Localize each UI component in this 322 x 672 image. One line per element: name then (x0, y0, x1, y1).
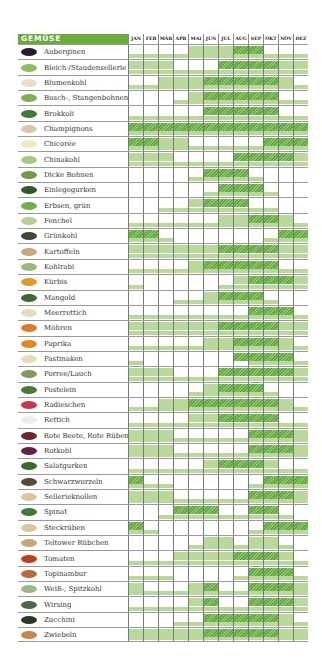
leek-icon (18, 369, 40, 380)
month-cell-jan (128, 152, 143, 166)
month-cell-jul (218, 214, 233, 228)
vegetable-name: Brokkoli (40, 110, 74, 118)
month-cell-sep (248, 413, 263, 427)
month-cell-sep (248, 613, 263, 627)
month-cell-jul (218, 490, 233, 504)
jerusalem-artichoke-icon (18, 568, 40, 579)
month-cell-dez (293, 244, 308, 258)
month-cell-apr (173, 444, 188, 458)
vegetable-row: Steckrüben (18, 520, 308, 535)
month-cell-dez (293, 337, 308, 351)
vegetable-name: Dicke Bohnen (40, 171, 93, 179)
month-cell-apr (173, 122, 188, 136)
vegetable-name: Weiß-, Spitzkohl (40, 585, 102, 593)
month-cell-jan (128, 367, 143, 381)
month-cell-sep (248, 198, 263, 212)
month-cell-jan (128, 137, 143, 151)
month-cell-feb (143, 429, 158, 443)
celeriac-icon (18, 492, 40, 503)
month-cell-dez (293, 597, 308, 611)
month-cell-mär (158, 137, 173, 151)
month-cell-jun (203, 275, 218, 289)
vegetable-name: Wirsing (40, 601, 71, 609)
kohlrabi-icon (18, 261, 40, 272)
month-cell-jan (128, 490, 143, 504)
vegetable-label: Fenchel (18, 214, 128, 228)
month-cell-feb (143, 521, 158, 535)
month-cell-apr (173, 413, 188, 427)
month-cell-dez (293, 321, 308, 335)
vegetable-label: Bleich-/Staudensellerie (18, 60, 128, 74)
vegetable-label: Rotkohl (18, 444, 128, 458)
month-cell-aug (233, 60, 248, 74)
month-cell-nov (278, 429, 293, 443)
month-cell-jul (218, 45, 233, 59)
month-cell-feb (143, 152, 158, 166)
month-cell-jun (203, 429, 218, 443)
month-cell-jun (203, 413, 218, 427)
month-cell-jun (203, 45, 218, 59)
month-cell-okt (263, 291, 278, 305)
month-cell-nov (278, 628, 293, 641)
vegetable-label: Auberginen (18, 45, 128, 59)
month-cell-apr (173, 229, 188, 243)
aubergine-icon (18, 47, 40, 58)
vegetable-row: Auberginen (18, 44, 308, 59)
vegetable-row: Fenchel (18, 213, 308, 228)
month-cell-aug (233, 198, 248, 212)
vegetable-label: Kürbis (18, 275, 128, 289)
month-cell-jul (218, 168, 233, 182)
vegetable-name: Rotkohl (40, 447, 72, 455)
month-header-aug: AUG (233, 34, 248, 44)
vegetable-name: Spinat (40, 508, 67, 516)
month-cell-jan (128, 475, 143, 489)
month-cell-mär (158, 536, 173, 550)
month-cell-feb (143, 367, 158, 381)
month-cell-mär (158, 628, 173, 641)
vegetable-row: Zwiebeln (18, 627, 308, 642)
month-cell-mär (158, 291, 173, 305)
month-cell-mär (158, 398, 173, 412)
vegetable-label: Brokkoli (18, 106, 128, 120)
month-cell-aug (233, 352, 248, 366)
month-cell-sep (248, 168, 263, 182)
month-cell-mär (158, 367, 173, 381)
vegetable-row: Möhren (18, 320, 308, 335)
month-cell-jul (218, 275, 233, 289)
month-cell-dez (293, 229, 308, 243)
month-cell-aug (233, 321, 248, 335)
month-cell-mär (158, 168, 173, 182)
month-cell-jan (128, 244, 143, 258)
calendar-header: GEMÜSE JANFEBMÄRAPRMAIJUNJULAUGSEPOKTNOV… (18, 34, 308, 44)
vegetable-row: Tomaten (18, 550, 308, 565)
month-cell-okt (263, 152, 278, 166)
month-cell-nov (278, 198, 293, 212)
vegetable-row: Champignons (18, 121, 308, 136)
month-cell-feb (143, 244, 158, 258)
month-cell-mai (188, 352, 203, 366)
month-cell-jan (128, 383, 143, 397)
month-cell-dez (293, 198, 308, 212)
vegetable-name: Rettich (40, 416, 70, 424)
month-cell-jan (128, 198, 143, 212)
month-cell-nov (278, 444, 293, 458)
month-cell-mai (188, 367, 203, 381)
month-cell-aug (233, 106, 248, 120)
month-cell-jan (128, 337, 143, 351)
month-cell-okt (263, 367, 278, 381)
month-cell-dez (293, 505, 308, 519)
month-cell-apr (173, 214, 188, 228)
month-cell-mär (158, 490, 173, 504)
month-cell-feb (143, 459, 158, 473)
month-cell-mai (188, 152, 203, 166)
month-cell-feb (143, 337, 158, 351)
month-cell-mai (188, 122, 203, 136)
month-cell-apr (173, 198, 188, 212)
month-cell-jan (128, 45, 143, 59)
month-cell-okt (263, 168, 278, 182)
month-cell-jun (203, 352, 218, 366)
month-cell-jun (203, 582, 218, 596)
month-cell-apr (173, 275, 188, 289)
vegetable-label: Chinakohl (18, 152, 128, 166)
month-cell-mai (188, 198, 203, 212)
